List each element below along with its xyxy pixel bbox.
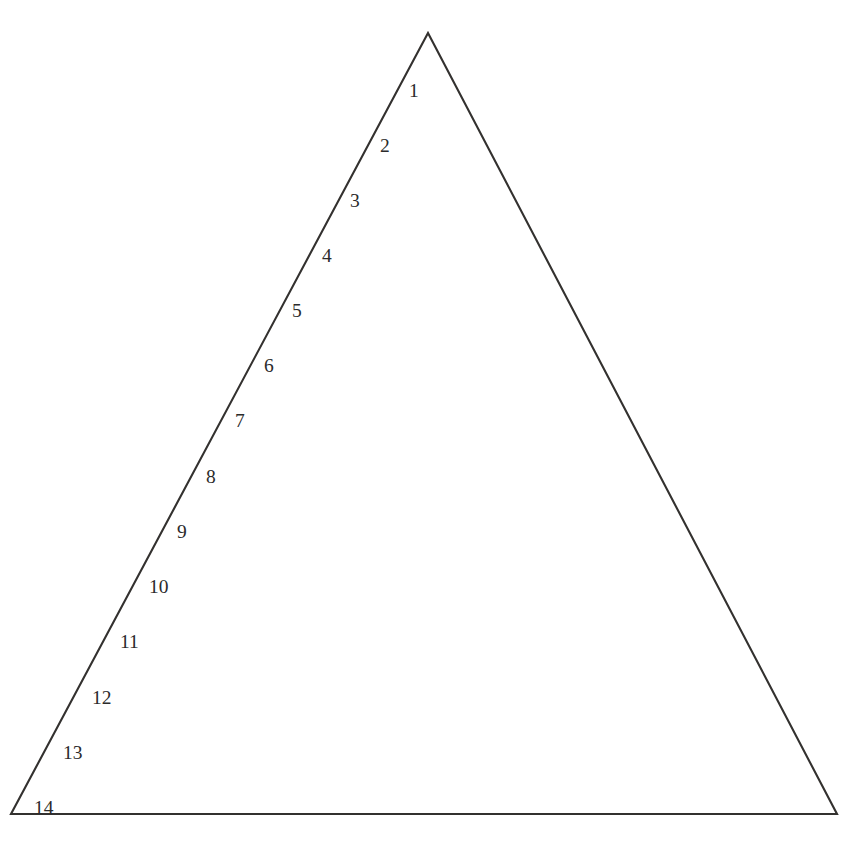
tier-number-label: 9 bbox=[177, 521, 187, 542]
tier-number-label: 6 bbox=[264, 355, 274, 376]
pyramid-diagram-figure: ------- ------ ---- ------- -- 123456789… bbox=[0, 0, 857, 844]
tier-number-label: 2 bbox=[380, 135, 390, 156]
tier-number-label: 11 bbox=[120, 631, 139, 652]
tier-number-label: 7 bbox=[235, 410, 245, 431]
tier-number-label: 8 bbox=[206, 466, 216, 487]
tier-number-label: 3 bbox=[350, 190, 360, 211]
pyramid-chart: 1234567891011121314 bbox=[0, 0, 857, 844]
tier-number-label: 13 bbox=[63, 742, 83, 763]
tier-number-label: 1 bbox=[409, 80, 419, 101]
tier-number-label: 14 bbox=[34, 797, 54, 818]
pyramid-outline bbox=[11, 33, 837, 814]
tier-number-label: 4 bbox=[322, 245, 332, 266]
tier-number-label: 10 bbox=[149, 576, 169, 597]
tier-number-label: 5 bbox=[292, 300, 302, 321]
tier-number-label: 12 bbox=[92, 687, 112, 708]
